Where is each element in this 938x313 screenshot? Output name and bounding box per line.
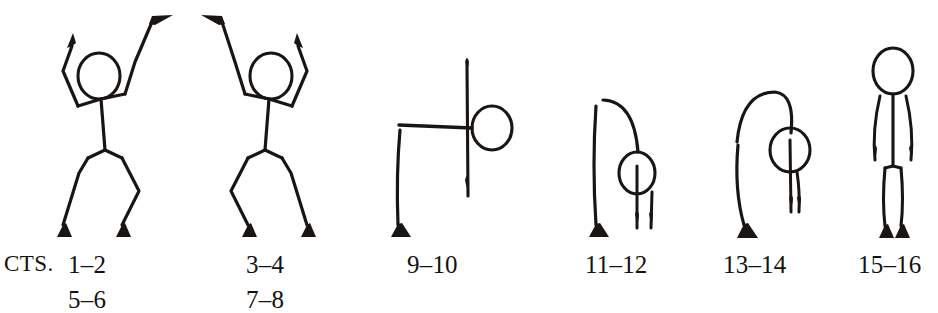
figure-6-left-leg xyxy=(884,168,886,226)
stick-figure-canvas xyxy=(0,0,938,313)
figure-4-leg-outer xyxy=(651,192,652,228)
stick-figure-illustration-board xyxy=(0,0,938,313)
figure-6-right-leg xyxy=(901,168,903,226)
